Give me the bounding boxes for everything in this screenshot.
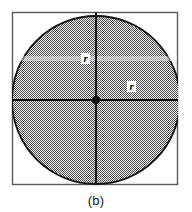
circle-in-square-diagram bbox=[0, 0, 192, 192]
figure-caption: (b) bbox=[0, 192, 192, 212]
radius-label-vertical: r bbox=[81, 53, 90, 64]
figure-drawing-area bbox=[0, 0, 192, 192]
figure-container: r r (b) bbox=[0, 0, 192, 212]
center-point-dot bbox=[92, 96, 100, 104]
radius-label-diagonal: r bbox=[127, 81, 136, 92]
scan-band-artifact bbox=[13, 56, 177, 61]
